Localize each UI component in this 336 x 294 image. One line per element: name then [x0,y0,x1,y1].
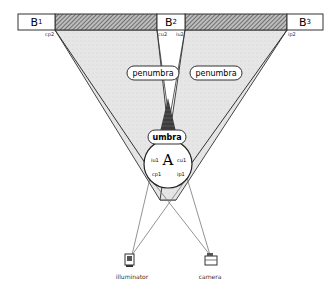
b3-sub: 3 [307,18,311,26]
b1-sub: 1 [38,18,42,26]
box-b3-label: B3 [287,14,323,30]
b3-letter: B [299,16,307,29]
point-cp1: cp1 [152,171,161,177]
shadow-diagram [0,0,336,294]
b1-letter: B [30,16,38,29]
edge-label-cp2: cp2 [45,31,54,37]
camera-label: camera [190,273,230,280]
penumbra-right-label: penumbra [190,66,242,80]
b2-letter: B [165,16,173,29]
edge-label-ip2: ip2 [288,31,296,37]
hatch-bar-right [185,14,287,30]
camera-icon [205,253,217,265]
box-b2-label: B2 [157,14,185,30]
penumbra-left-label: penumbra [127,66,179,80]
illuminator-icon [125,254,134,267]
point-iu1: iu1 [151,157,159,163]
point-cu1: cu1 [177,157,186,163]
umbra-label: umbra [148,130,186,144]
edge-label-iu2: iu2 [176,31,184,37]
box-b1-label: B1 [18,14,55,30]
edge-label-cu2: cu2 [158,31,167,37]
b2-sub: 2 [173,18,177,26]
hatch-bar-left [55,14,157,30]
point-ip1: ip1 [177,171,185,177]
object-a-label: A [160,151,176,169]
illuminator-label: illuminator [107,273,157,280]
